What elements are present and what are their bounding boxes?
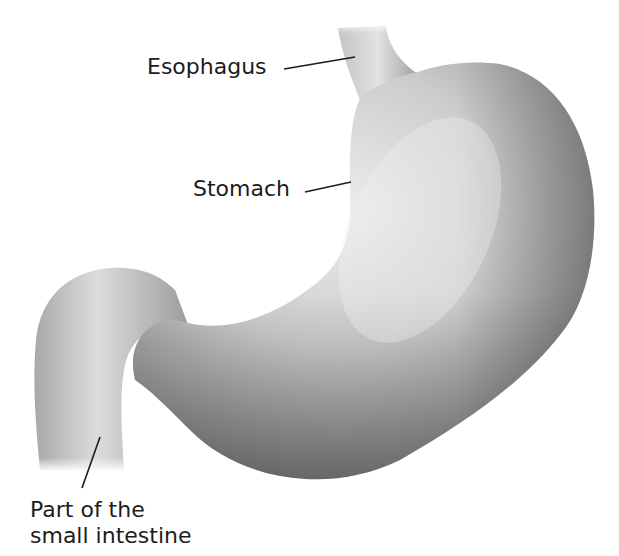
small-intestine-label: Part of the small intestine xyxy=(30,497,192,549)
esophagus-label: Esophagus xyxy=(147,54,267,80)
small-intestine-label-line1: Part of the xyxy=(30,497,192,523)
stomach-diagram xyxy=(0,0,619,556)
esophagus-leader-line xyxy=(284,57,355,69)
stomach-shape xyxy=(133,62,594,479)
stomach-leader-line xyxy=(305,182,351,192)
small-intestine-label-line2: small intestine xyxy=(30,523,192,549)
stomach-label: Stomach xyxy=(193,176,290,202)
